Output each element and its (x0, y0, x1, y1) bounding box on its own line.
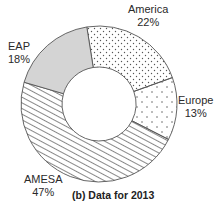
label-europe-pct: 13% (178, 107, 213, 120)
slice-eap (24, 27, 93, 94)
label-europe: Europe 13% (178, 94, 213, 120)
slice-america (87, 26, 173, 91)
slices-group (21, 26, 177, 182)
label-america-pct: 22% (128, 16, 168, 29)
label-america-name: America (128, 3, 168, 15)
label-eap-pct: 18% (8, 53, 30, 66)
label-america: America 22% (128, 3, 168, 29)
label-amesa-name: AMESA (24, 173, 63, 185)
label-europe-name: Europe (178, 94, 213, 106)
donut-chart: America 22% Europe 13% EAP 18% AMESA 47%… (0, 0, 220, 206)
chart-caption: (b) Data for 2013 (72, 189, 154, 201)
label-eap: EAP 18% (8, 40, 30, 66)
label-amesa-pct: 47% (24, 186, 63, 199)
label-amesa: AMESA 47% (24, 173, 63, 199)
label-eap-name: EAP (8, 40, 30, 52)
